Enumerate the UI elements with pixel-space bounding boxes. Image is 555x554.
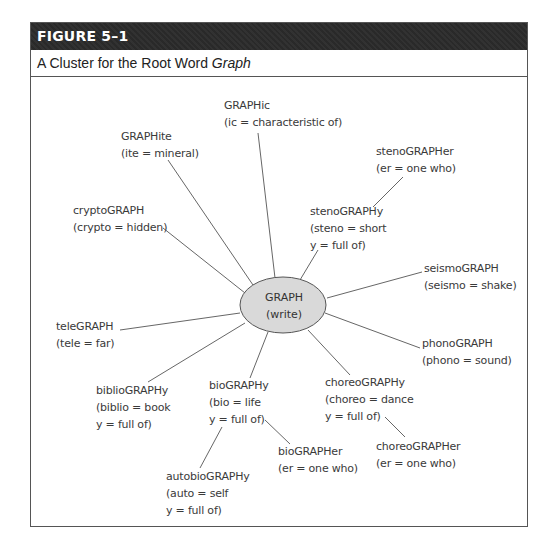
line-biographer [265,420,290,444]
node-word: teleGRAPH [56,318,114,335]
line-phonograph [325,313,420,348]
node-word: autobioGRAPHy [166,468,250,485]
node-meaning: (crypto = hidden) [73,219,167,236]
line-graphite [168,160,253,285]
node-word: cryptoGRAPH [73,202,167,219]
node-meaning: (seismo = shake) [424,277,517,294]
node-meaning: (tele = far) [56,335,114,352]
node-biographer: bioGRAPHer (er = one who) [278,443,358,477]
line-seismograph [327,272,422,298]
node-meaning-2: y = full of) [166,502,250,519]
node-meaning: (ic = characteristic of) [224,114,342,131]
node-meaning: (ite = mineral) [121,145,199,162]
node-word: choreoGRAPHer [376,438,460,455]
node-word: stenoGRAPHer [376,143,456,160]
line-graphic [258,133,275,278]
node-biography: bioGRAPHy (bio = life y = full of) [209,377,269,428]
line-telegraph [120,313,240,330]
center-node: GRAPH (write) [243,289,325,323]
node-phonograph: phonoGRAPH (phono = sound) [422,335,512,369]
line-stenography [300,250,318,280]
node-word: biblioGRAPHy [96,382,170,399]
node-choreography: choreoGRAPHy (choreo = dance y = full of… [325,374,414,425]
line-autobiography [200,427,222,468]
node-word: phonoGRAPH [422,335,512,352]
line-choreography [308,330,350,375]
node-word: GRAPHic [224,97,342,114]
node-meaning: (biblio = book [96,399,170,416]
node-graphic: GRAPHic (ic = characteristic of) [224,97,342,131]
node-word: bioGRAPHer [278,443,358,460]
node-word: choreoGRAPHy [325,374,414,391]
center-word: GRAPH [243,289,325,306]
node-word: bioGRAPHy [209,377,269,394]
node-seismograph: seismoGRAPH (seismo = shake) [424,260,517,294]
node-meaning: (er = one who) [376,160,456,177]
node-meaning-2: y = full of) [325,408,414,425]
node-autobiography: autobioGRAPHy (auto = self y = full of) [166,468,250,519]
node-meaning-2: y = full of) [209,411,269,428]
node-bibliography: biblioGRAPHy (biblio = book y = full of) [96,382,170,433]
node-meaning: (auto = self [166,485,250,502]
node-meaning: (er = one who) [278,460,358,477]
line-biography [250,332,268,378]
center-meaning: (write) [243,306,325,323]
node-word: GRAPHite [121,128,199,145]
node-word: stenoGRAPHy [310,203,386,220]
node-meaning: (er = one who) [376,455,460,472]
node-meaning: (choreo = dance [325,391,414,408]
node-stenography: stenoGRAPHy (steno = short y = full of) [310,203,386,254]
node-meaning-2: y = full of) [96,416,170,433]
node-choreographer: choreoGRAPHer (er = one who) [376,438,460,472]
node-meaning: (phono = sound) [422,352,512,369]
node-word: seismoGRAPH [424,260,517,277]
node-meaning-2: y = full of) [310,237,386,254]
node-stenographer: stenoGRAPHer (er = one who) [376,143,456,177]
line-cryptograph [163,228,245,293]
node-graphite: GRAPHite (ite = mineral) [121,128,199,162]
node-meaning: (bio = life [209,394,269,411]
node-cryptograph: cryptoGRAPH (crypto = hidden) [73,202,167,236]
node-meaning: (steno = short [310,220,386,237]
line-bibliography [148,323,245,382]
node-telegraph: teleGRAPH (tele = far) [56,318,114,352]
